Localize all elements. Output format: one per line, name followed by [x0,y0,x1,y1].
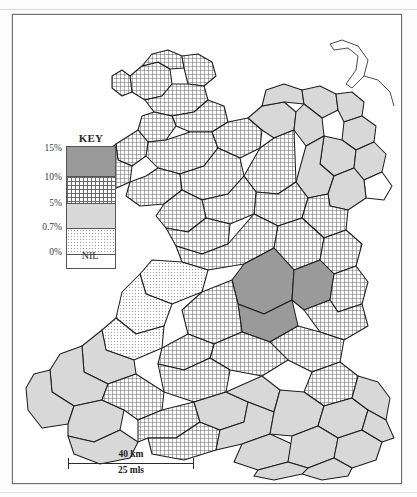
legend-band-5 [67,204,115,228]
scale-bar: 40 km 25 mls [64,448,204,482]
district-conwy-coast [262,84,304,106]
district-anglesey-holyhead [112,70,132,96]
legend-nil-label: NIL [66,250,114,261]
legend-tick-0: 0% [28,247,62,257]
coastline-wirral [330,40,368,88]
scan-artifact-bottom [0,492,417,493]
legend-tick-15: 15% [28,143,62,153]
scale-miles-label: 25 mls [64,465,198,475]
legend-band-15 [67,147,115,176]
district-anglesey-ne [182,54,216,86]
scale-line [68,463,194,464]
legend-tick-07: 0.7% [28,222,62,232]
legend-title: KEY [68,132,114,144]
coastline-dee [364,76,394,106]
legend-tick-5: 5% [28,198,62,208]
map-page: KEY 15% 10% 5% 0.7% 0% NIL 40 km 25 mls [0,0,417,497]
legend-band-10 [67,177,115,203]
scale-km-label: 40 km [64,449,198,459]
scan-artifact-top [0,9,417,10]
legend-tick-10: 10% [28,172,62,182]
